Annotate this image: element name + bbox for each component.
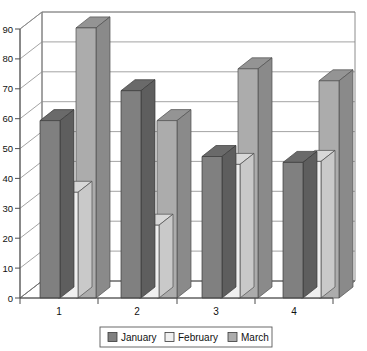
y-tick-label: 60 bbox=[2, 113, 13, 124]
bar-side bbox=[222, 146, 236, 299]
left-wall bbox=[20, 12, 42, 298]
bar-side bbox=[240, 153, 254, 298]
bar-chart: 90 80 70 60 50 40 30 20 10 0 bbox=[0, 0, 367, 351]
y-tick-label: 90 bbox=[2, 24, 13, 35]
bar-side bbox=[60, 110, 74, 298]
y-tick-labels: 90 80 70 60 50 40 30 20 10 0 bbox=[2, 24, 13, 304]
legend-label-january: January bbox=[121, 332, 157, 343]
x-tick-label: 1 bbox=[56, 306, 62, 317]
bar-front bbox=[202, 157, 222, 299]
bar-side bbox=[141, 80, 155, 298]
bar-front bbox=[40, 121, 60, 298]
bar-side bbox=[159, 214, 173, 298]
y-tick-label: 0 bbox=[8, 293, 13, 304]
legend-label-march: March bbox=[241, 332, 269, 343]
y-tick-label: 80 bbox=[2, 53, 13, 64]
y-tick-label: 20 bbox=[2, 233, 13, 244]
legend-item-january[interactable]: January bbox=[108, 332, 157, 343]
legend-swatch-march bbox=[228, 333, 237, 342]
bar-january-4[interactable] bbox=[283, 151, 317, 298]
bar-side bbox=[339, 70, 353, 298]
bar-side bbox=[177, 110, 191, 298]
y-tick-label: 50 bbox=[2, 143, 13, 154]
bar-side bbox=[303, 151, 317, 298]
legend-item-february[interactable]: February bbox=[165, 332, 218, 343]
legend-swatch-january bbox=[108, 333, 117, 342]
y-tick-label: 40 bbox=[2, 173, 13, 184]
bar-side bbox=[258, 58, 272, 298]
bar-front bbox=[283, 162, 303, 298]
bar-side bbox=[78, 181, 92, 298]
x-tick-label: 4 bbox=[291, 306, 297, 317]
legend-item-march[interactable]: March bbox=[228, 332, 269, 343]
legend-label-february: February bbox=[178, 332, 218, 343]
x-tick-label: 3 bbox=[213, 306, 219, 317]
y-tick-label: 30 bbox=[2, 203, 13, 214]
bar-january-1[interactable] bbox=[40, 110, 74, 298]
x-axis bbox=[20, 298, 333, 304]
bar-front bbox=[121, 91, 141, 298]
bar-side bbox=[321, 150, 335, 298]
bar-january-2[interactable] bbox=[121, 80, 155, 298]
chart-container: 90 80 70 60 50 40 30 20 10 0 bbox=[0, 0, 367, 351]
y-tick-label: 70 bbox=[2, 83, 13, 94]
y-axis bbox=[15, 29, 20, 298]
legend-swatch-february bbox=[165, 333, 174, 342]
bar-january-3[interactable] bbox=[202, 146, 236, 299]
legend: January February March bbox=[100, 327, 272, 347]
bar-side bbox=[96, 17, 110, 298]
x-tick-labels: 1 2 3 4 bbox=[56, 306, 297, 317]
y-tick-label: 10 bbox=[2, 263, 13, 274]
x-tick-label: 2 bbox=[134, 306, 140, 317]
